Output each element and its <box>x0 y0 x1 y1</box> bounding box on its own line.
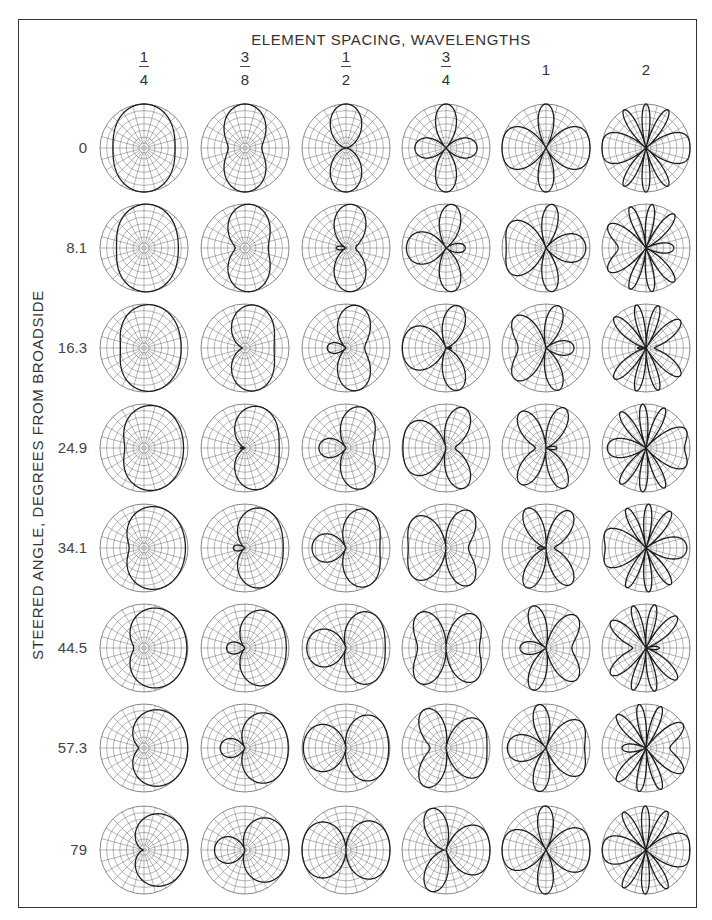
polar-pattern-plot <box>602 704 690 792</box>
polar-pattern-plot <box>100 504 188 592</box>
polar-pattern-plot <box>502 704 590 792</box>
polar-pattern-plot <box>201 104 289 192</box>
polar-pattern-plot <box>402 504 490 592</box>
polar-pattern-plot <box>100 604 188 692</box>
polar-pattern-plot <box>100 204 188 292</box>
polar-pattern-plot <box>502 404 590 492</box>
polar-pattern-plot <box>502 204 590 292</box>
polar-pattern-plot <box>302 704 390 792</box>
polar-pattern-plot <box>502 304 590 392</box>
polar-pattern-plot <box>502 806 590 894</box>
polar-pattern-plot <box>201 704 289 792</box>
polar-pattern-plot <box>100 704 188 792</box>
polar-pattern-plot <box>602 604 690 692</box>
polar-pattern-plot <box>302 504 390 592</box>
polar-pattern-plot <box>201 806 289 894</box>
polar-pattern-plot <box>602 504 690 592</box>
polar-pattern-plot <box>201 604 289 692</box>
polar-pattern-plot <box>502 604 590 692</box>
polar-pattern-plot <box>100 806 188 894</box>
polar-pattern-plot <box>201 404 289 492</box>
polar-plot-grid <box>0 0 712 920</box>
polar-pattern-plot <box>302 104 390 192</box>
polar-pattern-plot <box>402 104 490 192</box>
polar-pattern-plot <box>302 806 390 894</box>
polar-pattern-plot <box>201 504 289 592</box>
polar-pattern-plot <box>402 704 490 792</box>
polar-pattern-plot <box>602 204 690 292</box>
polar-pattern-plot <box>402 806 490 894</box>
polar-pattern-plot <box>201 304 289 392</box>
polar-pattern-plot <box>402 604 490 692</box>
polar-pattern-plot <box>100 404 188 492</box>
polar-pattern-plot <box>302 404 390 492</box>
polar-pattern-plot <box>602 404 690 492</box>
polar-pattern-plot <box>602 104 690 192</box>
polar-pattern-plot <box>100 304 188 392</box>
polar-pattern-plot <box>201 204 289 292</box>
polar-pattern-plot <box>100 104 188 192</box>
polar-pattern-plot <box>602 304 690 392</box>
polar-pattern-plot <box>502 104 590 192</box>
polar-pattern-plot <box>602 806 690 894</box>
polar-pattern-plot <box>502 504 590 592</box>
polar-pattern-plot <box>402 204 490 292</box>
polar-pattern-plot <box>402 404 490 492</box>
polar-pattern-plot <box>302 604 390 692</box>
polar-pattern-plot <box>302 204 390 292</box>
polar-pattern-plot <box>402 304 490 392</box>
polar-pattern-plot <box>302 304 390 392</box>
